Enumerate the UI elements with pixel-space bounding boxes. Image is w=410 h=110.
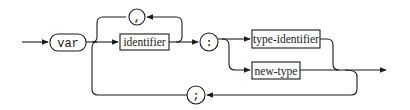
syntax-diagram: var , identifier : type-identifier new-t… (0, 0, 410, 110)
colon-node: : (200, 33, 218, 51)
new-type-label: new-type (255, 65, 298, 78)
identifier-node: identifier (120, 34, 169, 50)
semicolon-node: ; (187, 86, 205, 104)
colon-label: : (206, 37, 213, 49)
comma-node: , (129, 9, 145, 25)
colon-to-new-type-line (222, 39, 250, 70)
type-identifier-label: type-identifier (253, 33, 319, 46)
type-identifier-node: type-identifier (252, 30, 320, 48)
type-identifier-exit-line (320, 39, 339, 70)
comma-label: , (134, 12, 141, 24)
new-type-node: new-type (252, 62, 300, 79)
var-keyword-node: var (50, 34, 86, 51)
identifier-label: identifier (123, 36, 165, 48)
semicolon-label: ; (193, 90, 200, 102)
var-keyword-label: var (57, 37, 79, 51)
